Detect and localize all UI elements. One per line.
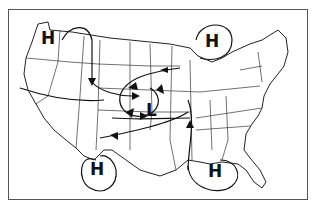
high-pressure-southwest: H <box>90 161 104 178</box>
state-lines <box>26 30 262 170</box>
low-pressure-central: L <box>146 102 157 119</box>
high-pressure-gulf: H <box>208 163 222 180</box>
high-pressure-northwest: H <box>41 30 55 47</box>
high-pressure-great-lakes: H <box>205 33 219 50</box>
